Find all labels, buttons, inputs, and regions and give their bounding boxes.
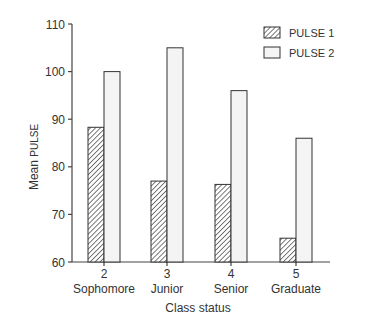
x-tick-code: 5 xyxy=(293,267,300,281)
x-tick-code: 2 xyxy=(101,267,108,281)
legend-label: PULSE 2 xyxy=(289,47,334,59)
y-tick-label: 60 xyxy=(52,256,66,270)
bar-pulse-2 xyxy=(296,138,312,262)
legend: PULSE 1PULSE 2 xyxy=(264,27,334,59)
bar-pulse-1 xyxy=(215,184,231,262)
y-tick-label: 70 xyxy=(52,208,66,222)
x-tick-code: 3 xyxy=(164,267,171,281)
legend-swatch xyxy=(264,27,280,38)
bar-pulse-1 xyxy=(280,238,296,262)
x-tick-code: 4 xyxy=(228,267,235,281)
x-tick-label: Senior xyxy=(214,282,249,296)
bar-pulse-2 xyxy=(231,91,247,262)
y-axis-title-small: PULSE xyxy=(29,124,40,157)
y-tick-label: 80 xyxy=(52,160,66,174)
legend-swatch xyxy=(264,47,280,58)
legend-label: PULSE 1 xyxy=(289,27,334,39)
y-tick-label: 90 xyxy=(52,113,66,127)
bar-pulse-1 xyxy=(151,181,167,262)
y-axis-title-main: Mean xyxy=(27,157,41,190)
x-tick-label: Graduate xyxy=(271,282,321,296)
x-tick-label: Sophomore xyxy=(73,282,135,296)
y-tick-label: 110 xyxy=(46,18,65,32)
bar-pulse-2 xyxy=(104,72,120,262)
bar-chart: 607080901001102Sophomore3Junior4Senior5G… xyxy=(0,0,367,335)
bar-pulse-1 xyxy=(88,127,104,262)
chart-svg: 607080901001102Sophomore3Junior4Senior5G… xyxy=(0,0,367,335)
x-tick-label: Junior xyxy=(151,282,184,296)
bar-pulse-2 xyxy=(167,48,183,262)
bars xyxy=(88,48,312,262)
y-axis-title: Mean PULSE xyxy=(27,124,41,190)
y-tick-label: 100 xyxy=(45,65,65,79)
x-axis-title: Class status xyxy=(165,301,230,315)
